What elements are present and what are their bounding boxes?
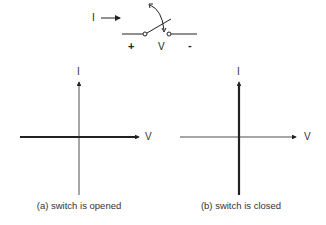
- graph-a-x-label: V: [145, 131, 152, 142]
- switch-icon: [122, 4, 197, 36]
- graph-a: [20, 82, 139, 195]
- graph-a-y-label: I: [77, 66, 80, 77]
- graph-b: [180, 82, 296, 195]
- graph-b-y-label: I: [237, 66, 240, 77]
- graph-a-caption: (a) switch is opened: [37, 200, 121, 211]
- diagram-canvas: [0, 0, 326, 225]
- graph-b-caption: (b) switch is closed: [201, 200, 281, 211]
- graph-b-x-label: V: [304, 131, 311, 142]
